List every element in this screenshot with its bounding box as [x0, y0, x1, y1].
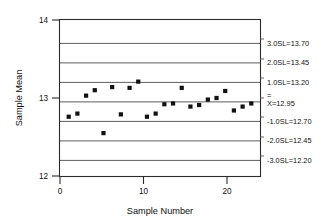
- data-point: [188, 104, 192, 108]
- data-point: [75, 112, 79, 116]
- data-point: [162, 102, 166, 106]
- y-tick-label-13: 13: [39, 94, 49, 103]
- x-tick-label-0: 0: [58, 187, 63, 196]
- data-point: [119, 112, 123, 116]
- limit-label-center: X=12.95: [267, 99, 295, 108]
- control-limit-lines: [60, 43, 260, 160]
- data-point: [93, 88, 97, 92]
- data-point: [249, 101, 253, 105]
- data-point: [171, 101, 175, 105]
- limit-label-1sl-lower: -1.0SL=12.70: [267, 117, 312, 126]
- data-point: [232, 108, 236, 112]
- y-axis-ticks: [52, 20, 60, 176]
- y-tick-label-14: 14: [39, 16, 49, 25]
- x-axis-title: Sample Number: [127, 206, 193, 216]
- x-tick-label-20: 20: [222, 187, 232, 196]
- x-axis-ticks: [60, 176, 227, 184]
- data-point: [67, 115, 71, 119]
- data-point: [145, 115, 149, 119]
- data-point: [197, 103, 201, 107]
- limit-label-1sl-upper: 1.0SL=13.20: [267, 78, 309, 87]
- data-point: [214, 96, 218, 100]
- data-point: [241, 104, 245, 108]
- limit-label-3sl-upper: 3.0SL=13.70: [267, 39, 309, 48]
- data-point: [223, 89, 227, 93]
- data-point: [101, 131, 105, 135]
- y-tick-label-12: 12: [39, 172, 49, 181]
- limit-label-3sl-lower: -3.0SL=12.20: [267, 156, 312, 165]
- chart-canvas: 14 13 12 0 10 20 Sample Mean Sample Numb…: [0, 0, 335, 221]
- data-point: [154, 112, 158, 116]
- control-chart: 14 13 12 0 10 20 Sample Mean Sample Numb…: [0, 0, 335, 221]
- limit-label-2sl-upper: 2.0SL=13.45: [267, 58, 309, 67]
- data-point: [110, 85, 114, 89]
- data-point: [180, 86, 184, 90]
- x-tick-label-10: 10: [139, 187, 149, 196]
- data-point: [206, 97, 210, 101]
- y-axis-title: Sample Mean: [14, 70, 24, 127]
- data-point-group: [67, 80, 254, 136]
- data-point: [127, 86, 131, 90]
- data-point: [136, 80, 140, 84]
- data-point: [84, 94, 88, 98]
- limit-label-2sl-lower: -2.0SL=12.45: [267, 136, 312, 145]
